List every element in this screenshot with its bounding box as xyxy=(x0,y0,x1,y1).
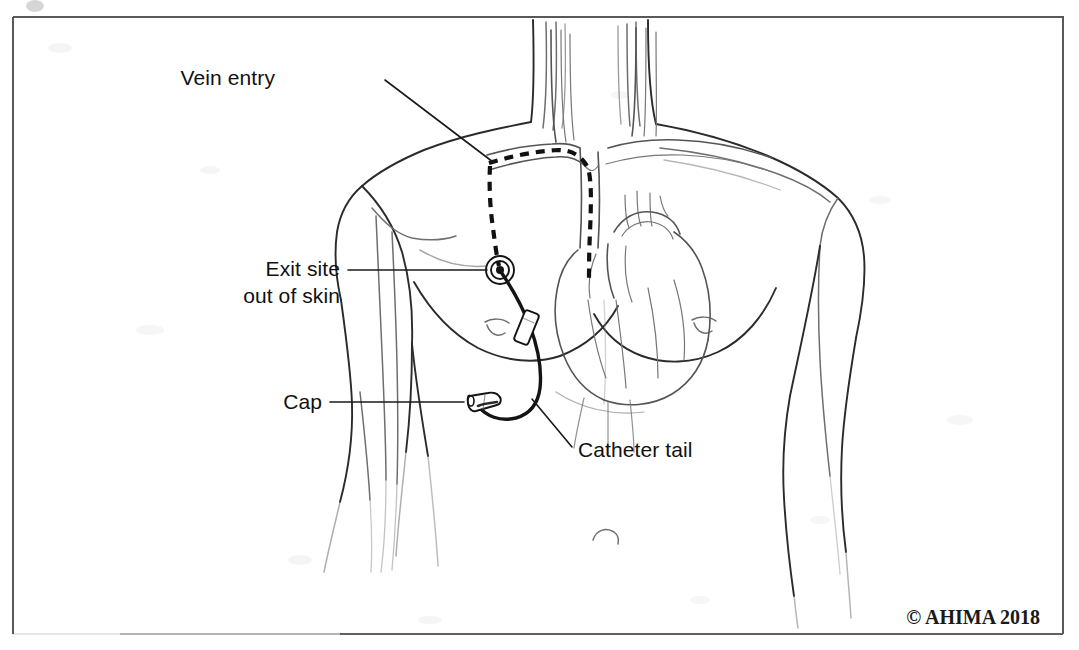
label-cap: Cap xyxy=(283,390,322,413)
label-exit-site-line2: out of skin xyxy=(243,284,340,307)
top-cropped-glyph xyxy=(26,0,44,12)
label-vein-entry: Vein entry xyxy=(181,66,276,89)
copyright-notice: © AHIMA 2018 xyxy=(906,606,1040,628)
figure-page: Vein entry Exit site out of skin Cap Cat… xyxy=(0,0,1079,650)
label-exit-site-line1: Exit site xyxy=(266,257,340,280)
exit-site-marker xyxy=(486,256,514,284)
label-catheter-tail: Catheter tail xyxy=(578,438,693,461)
catheter-placement-illustration: Vein entry Exit site out of skin Cap Cat… xyxy=(0,0,1079,650)
canvas-background xyxy=(0,0,1079,650)
